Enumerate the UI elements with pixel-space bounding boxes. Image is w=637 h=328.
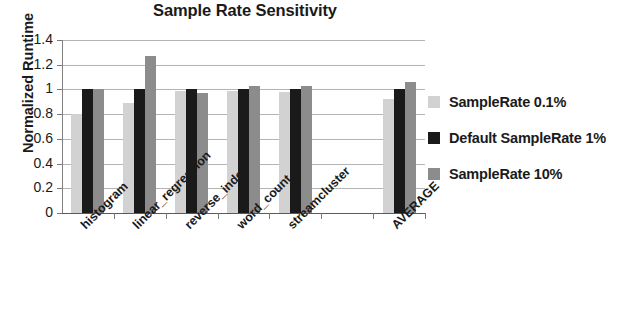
bar bbox=[405, 82, 416, 213]
bar bbox=[93, 89, 104, 213]
bar-group bbox=[71, 40, 104, 213]
y-tick-label: 0.4 bbox=[34, 155, 53, 171]
bar bbox=[123, 103, 134, 213]
y-tick-label: 0.8 bbox=[34, 105, 53, 121]
legend-swatch-icon bbox=[428, 96, 440, 108]
chart-legend: SampleRate 0.1%Default SampleRate 1%Samp… bbox=[428, 84, 637, 192]
legend-item[interactable]: Default SampleRate 1% bbox=[428, 120, 637, 156]
y-tick-label: 1 bbox=[45, 80, 53, 96]
bar bbox=[249, 86, 260, 213]
y-tick-label: 0.6 bbox=[34, 130, 53, 146]
legend-label: Default SampleRate 1% bbox=[449, 130, 606, 146]
legend-item[interactable]: SampleRate 0.1% bbox=[428, 84, 637, 120]
bar bbox=[383, 99, 394, 213]
bar bbox=[394, 89, 405, 213]
bar bbox=[186, 89, 197, 213]
legend-swatch-icon bbox=[428, 168, 440, 180]
legend-label: SampleRate 10% bbox=[449, 166, 562, 182]
bar bbox=[145, 56, 156, 213]
bar bbox=[71, 114, 82, 213]
legend-swatch-icon bbox=[428, 132, 440, 144]
bar bbox=[290, 89, 301, 213]
y-axis-line bbox=[62, 40, 63, 213]
y-tick-label: 1.2 bbox=[34, 56, 53, 72]
x-axis-labels: histogramlinear_regressionreverse_indexw… bbox=[0, 213, 440, 328]
y-tick-label: 0.2 bbox=[34, 179, 53, 195]
bar bbox=[134, 89, 145, 213]
bar bbox=[82, 89, 93, 213]
legend-label: SampleRate 0.1% bbox=[449, 94, 566, 110]
bar bbox=[301, 86, 312, 213]
bar bbox=[238, 89, 249, 213]
legend-item[interactable]: SampleRate 10% bbox=[428, 156, 637, 192]
bar-group bbox=[383, 40, 416, 213]
chart-figure: Sample Rate Sensitivity Normalized Runti… bbox=[0, 0, 637, 328]
y-tick-label: 1.4 bbox=[34, 31, 53, 47]
chart-title: Sample Rate Sensitivity bbox=[60, 1, 430, 20]
